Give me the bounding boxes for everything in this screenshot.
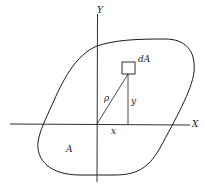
x-distance-label: x: [111, 127, 116, 136]
area-outline: [38, 39, 194, 175]
y-axis-label: Y: [97, 6, 103, 15]
x-axis: [10, 124, 190, 125]
y-axis: [97, 14, 98, 182]
diagram-canvas: [0, 0, 205, 195]
radius-label: ρ: [104, 94, 109, 103]
area-element: [122, 62, 135, 74]
area-label: A: [66, 145, 73, 154]
element-label: dA: [138, 55, 150, 64]
x-axis-label: X: [192, 120, 198, 129]
radius-line: [97, 74, 128, 124]
y-distance-label: y: [131, 97, 136, 106]
